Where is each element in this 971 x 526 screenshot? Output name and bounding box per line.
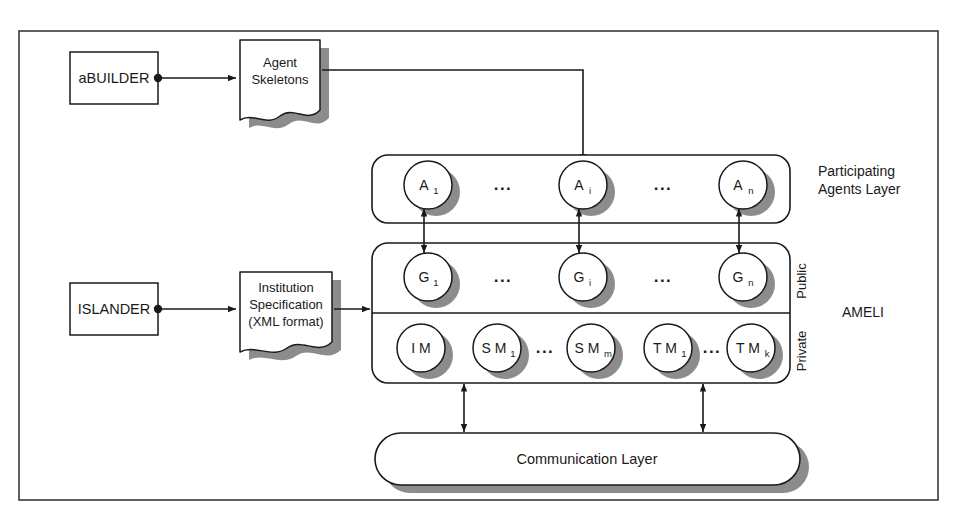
private-label: Private	[794, 331, 809, 371]
governors-ellipsis-left: ...	[494, 267, 513, 286]
diagram-canvas: aBUILDER ISLANDER Agent Skeletons	[0, 0, 971, 526]
scene-manager-m-subscript: m	[604, 348, 612, 359]
governor-1-label: G	[419, 269, 430, 285]
governor-n-subscript: n	[748, 277, 753, 288]
transition-manager-k-label: T M	[736, 340, 760, 356]
agents-ellipsis-left: ...	[494, 175, 513, 194]
scene-manager-m-label: S M	[575, 340, 600, 356]
managers-ellipsis-scene: ...	[536, 338, 555, 357]
islander-label: ISLANDER	[78, 301, 151, 317]
agent-skeletons-document: Agent Skeletons	[240, 40, 329, 128]
abuilder-label: aBUILDER	[79, 70, 150, 86]
agent-i-subscript: i	[589, 185, 591, 196]
governors-ellipsis-right: ...	[654, 267, 673, 286]
ameli-label: AMELI	[842, 304, 884, 320]
transition-manager-1-label: T M	[653, 340, 677, 356]
abuilder-box: aBUILDER	[70, 52, 158, 104]
transition-manager-1-subscript: 1	[681, 348, 686, 359]
agent-i-label: A	[574, 177, 584, 193]
governor-i-label: G	[574, 269, 585, 285]
participating-agents-label-line-2: Agents Layer	[818, 181, 901, 197]
institution-specification-document: Institution Specification (XML format)	[240, 272, 341, 360]
agent-skeletons-line-2: Skeletons	[251, 72, 309, 87]
institution-spec-line-3: (XML format)	[248, 314, 323, 329]
institution-manager-label: I M	[411, 340, 430, 356]
communication-layer-label: Communication Layer	[516, 451, 657, 467]
governor-i-subscript: i	[589, 277, 591, 288]
agent-1-subscript: 1	[433, 185, 438, 196]
architecture-diagram: aBUILDER ISLANDER Agent Skeletons	[0, 0, 971, 526]
institution-spec-line-1: Institution	[258, 280, 314, 295]
communication-layer-box: Communication Layer	[375, 433, 809, 493]
governor-n-label: G	[733, 269, 744, 285]
governor-1-subscript: 1	[433, 277, 438, 288]
agent-1-label: A	[419, 177, 429, 193]
agent-n-label: A	[733, 177, 743, 193]
institution-spec-line-2: Specification	[249, 297, 323, 312]
managers-ellipsis-transition: ...	[703, 338, 722, 357]
agents-ellipsis-right: ...	[654, 175, 673, 194]
agent-skeletons-line-1: Agent	[263, 55, 297, 70]
scene-manager-1-label: S M	[482, 340, 507, 356]
islander-box: ISLANDER	[70, 283, 158, 335]
public-label: Public	[794, 263, 809, 299]
agent-n-subscript: n	[748, 185, 753, 196]
participating-agents-label-line-1: Participating	[818, 163, 895, 179]
transition-manager-k-subscript: k	[765, 348, 770, 359]
scene-manager-1-subscript: 1	[510, 348, 515, 359]
